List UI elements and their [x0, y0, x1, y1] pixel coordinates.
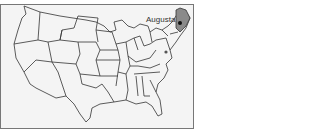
state-maine [176, 8, 190, 32]
capital-label: Augusta [146, 15, 175, 24]
dc-marker [164, 50, 167, 53]
capital-marker [178, 21, 182, 25]
